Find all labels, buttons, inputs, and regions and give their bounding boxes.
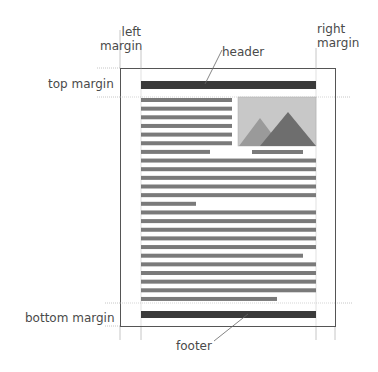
left-margin-label-2: margin bbox=[100, 39, 142, 53]
text-line bbox=[141, 236, 316, 240]
left-margin-label-line1: left bbox=[121, 25, 141, 39]
text-line bbox=[141, 288, 316, 292]
footer-bar bbox=[141, 311, 316, 318]
text-line bbox=[141, 193, 316, 197]
text-line bbox=[141, 210, 316, 214]
text-line bbox=[141, 254, 303, 258]
text-line bbox=[141, 185, 316, 189]
text-line bbox=[141, 107, 232, 111]
header-label: header bbox=[222, 45, 264, 59]
footer-label: footer bbox=[176, 339, 212, 353]
text-line bbox=[141, 271, 316, 275]
text-line bbox=[141, 297, 277, 301]
text-line bbox=[141, 98, 232, 102]
right-margin-label-line1: right bbox=[317, 22, 345, 36]
top-margin-label: top margin bbox=[48, 77, 114, 91]
text-line bbox=[141, 280, 316, 284]
text-line bbox=[141, 124, 232, 128]
image-caption-line bbox=[252, 150, 303, 154]
bottom-margin-label: bottom margin bbox=[25, 311, 115, 325]
left-margin-label: left bbox=[121, 25, 141, 39]
text-line bbox=[141, 262, 316, 266]
text-line bbox=[141, 141, 232, 145]
text-line bbox=[141, 219, 316, 223]
text-line bbox=[141, 133, 232, 137]
text-line bbox=[141, 228, 316, 232]
header-bar bbox=[141, 81, 316, 89]
text-line bbox=[141, 150, 210, 154]
text-line bbox=[141, 202, 196, 206]
text-line bbox=[141, 176, 316, 180]
text-line bbox=[141, 159, 316, 163]
text-line bbox=[141, 245, 316, 249]
text-line bbox=[141, 167, 316, 171]
right-margin-label-line2: margin bbox=[317, 36, 359, 50]
text-line bbox=[141, 115, 232, 119]
